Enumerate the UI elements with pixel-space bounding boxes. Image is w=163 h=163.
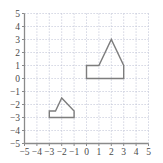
y-tick-label: −1 — [10, 87, 20, 97]
plot-svg: −5−4−3−2−1012345−5−4−3−2−1012345 — [0, 0, 163, 163]
coordinate-grid-figure: −5−4−3−2−1012345−5−4−3−2−1012345 — [0, 0, 163, 163]
x-tick-label: 2 — [109, 147, 114, 157]
y-tick-label: −5 — [10, 139, 20, 149]
x-tick-label: 3 — [121, 147, 126, 157]
tick-marks — [22, 14, 149, 147]
x-tick-label: 4 — [134, 147, 139, 157]
y-tick-label: −3 — [10, 113, 20, 123]
tick-labels: −5−4−3−2−1012345−5−4−3−2−1012345 — [10, 9, 151, 157]
y-tick-label: 2 — [15, 48, 20, 58]
y-tick-label: −2 — [10, 100, 20, 110]
y-tick-label: 1 — [15, 61, 20, 71]
data-shapes — [49, 40, 123, 118]
y-tick-label: 5 — [15, 9, 20, 19]
x-tick-label: −3 — [44, 147, 54, 157]
x-tick-label: 5 — [146, 147, 151, 157]
x-tick-label: −1 — [69, 147, 79, 157]
x-tick-label: −4 — [32, 147, 42, 157]
y-tick-label: 0 — [15, 74, 20, 84]
y-tick-label: 3 — [15, 35, 20, 45]
shape-large-polygon — [87, 40, 124, 79]
x-tick-label: −5 — [19, 147, 29, 157]
x-tick-label: −2 — [57, 147, 67, 157]
x-tick-label: 1 — [97, 147, 102, 157]
y-tick-label: −4 — [10, 126, 20, 136]
x-tick-label: 0 — [84, 147, 89, 157]
y-tick-label: 4 — [15, 22, 20, 32]
